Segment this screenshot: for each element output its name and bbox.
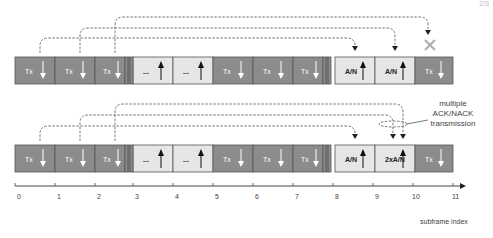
annotation-line-2: ACK/NACK <box>418 109 488 119</box>
subframe-label: Tx <box>65 156 73 163</box>
subframe-label: ... <box>143 68 149 75</box>
axis-tick-label: 6 <box>255 193 259 200</box>
axis-tick-label: 9 <box>375 193 379 200</box>
subframe-tx: Tx <box>415 57 453 84</box>
x-axis: 01234567891011 <box>15 183 466 200</box>
axis-tick-label: 0 <box>17 193 21 200</box>
subframe-label: A/N <box>345 156 357 163</box>
subframe-label: Tx <box>425 68 433 75</box>
arrowhead-icon <box>400 134 406 139</box>
subframe-tx: Tx <box>253 145 293 172</box>
arrowhead-icon <box>392 46 398 51</box>
arrowhead-icon <box>352 134 358 139</box>
subframe-tx: Tx <box>253 57 293 84</box>
subframe-uplink: A/N <box>375 57 415 84</box>
subframe-label: Tx <box>223 156 231 163</box>
subframe-uplink: A/N <box>335 57 375 84</box>
subframe-tx: Tx <box>213 57 253 84</box>
subframe-tx: Tx <box>95 57 125 84</box>
arrowhead-icon <box>425 30 431 35</box>
subframe-tx: Tx <box>415 145 453 172</box>
subframe-gap-separator <box>125 145 133 172</box>
subframe-label: Tx <box>65 68 73 75</box>
harq-link <box>80 28 398 53</box>
subframe-label: Tx <box>103 68 111 75</box>
axis-tick-label: 5 <box>215 193 219 200</box>
subframe-uplink: ... <box>173 57 213 84</box>
multiple-ack-nack-annotation: multiple ACK/NACK transmission <box>418 99 488 129</box>
subframe-uplink: A/N <box>335 145 375 172</box>
subframe-uplink: ... <box>133 57 173 84</box>
axis-tick-label: 7 <box>295 193 299 200</box>
subframe-tx: Tx <box>213 145 253 172</box>
arrowhead-icon <box>390 134 396 139</box>
subframe-tx: Tx <box>293 145 323 172</box>
subframe-label: Tx <box>301 156 309 163</box>
axis-tick-label: 1 <box>57 193 61 200</box>
subframe-gap-separator <box>323 57 331 84</box>
arrowhead-icon <box>352 46 358 51</box>
subframe-tx: Tx <box>293 57 323 84</box>
subframe-uplink: ... <box>173 145 213 172</box>
harq-link <box>115 104 406 141</box>
subframe-label: Tx <box>223 68 231 75</box>
subframe-label: 2xA/N <box>385 156 405 163</box>
subframe-tx: Tx <box>55 57 95 84</box>
axis-tick-label: 10 <box>412 193 420 200</box>
subframe-label: Tx <box>25 68 33 75</box>
subframe-label: A/N <box>385 68 397 75</box>
subframe-uplink: ... <box>133 145 173 172</box>
annotation-line-3: transmission <box>418 119 488 129</box>
subframe-tx: Tx <box>55 145 95 172</box>
subframe-label: Tx <box>263 68 271 75</box>
subframe-label: ... <box>143 156 149 163</box>
subframe-label: Tx <box>25 156 33 163</box>
axis-tick-label: 4 <box>175 193 179 200</box>
harq-link <box>80 115 396 141</box>
subframe-label: A/N <box>345 68 357 75</box>
harq-link <box>40 38 358 53</box>
axis-tick-label: 8 <box>335 193 339 200</box>
subframe-tx: Tx <box>15 145 55 172</box>
subframe-label: ... <box>183 68 189 75</box>
axis-tick-label: 11 <box>452 193 459 200</box>
subframe-tx: Tx <box>95 145 125 172</box>
row-multiple-ack: TxTxTx......TxTxTxA/N2xA/NTx <box>15 104 453 172</box>
subframe-uplink: 2xA/N <box>375 145 415 172</box>
x-axis-title: subframe index <box>420 218 468 225</box>
subframe-label: Tx <box>263 156 271 163</box>
axis-tick-label: 3 <box>135 193 139 200</box>
subframe-tx: Tx <box>15 57 55 84</box>
subframe-label: Tx <box>425 156 433 163</box>
harq-link <box>40 126 358 141</box>
subframe-label: Tx <box>103 156 111 163</box>
harq-link-failed <box>115 17 435 53</box>
subframe-label: Tx <box>301 68 309 75</box>
annotation-line-1: multiple <box>418 99 488 109</box>
subframe-gap-separator <box>125 57 133 84</box>
subframe-gap-separator <box>323 145 331 172</box>
row-single-ack: TxTxTx......TxTxTxA/NA/NTx <box>15 17 453 84</box>
subframe-label: ... <box>183 156 189 163</box>
axis-tick-label: 2 <box>97 193 101 200</box>
axis-arrow-icon <box>460 183 466 189</box>
cross-fail-icon <box>425 40 435 50</box>
